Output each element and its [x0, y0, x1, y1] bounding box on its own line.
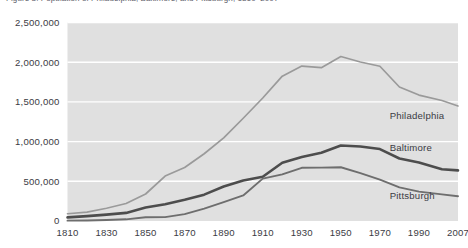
- y-axis-tick-label: 0: [54, 215, 60, 226]
- y-axis-tick-label: 2,500,000: [15, 17, 59, 28]
- series-label-baltimore: Baltimore: [390, 142, 432, 153]
- x-axis-tick-label: 1890: [213, 227, 235, 238]
- population-line-chart: Figure 3. Population of Philadelphia, Ba…: [0, 0, 468, 248]
- x-axis-tick-label: 1830: [95, 227, 117, 238]
- plot-area-wrapper: 0500,0001,000,0001,500,0002,000,0002,500…: [0, 0, 468, 248]
- x-axis-tick-label: 2007: [447, 227, 468, 238]
- y-axis-tick-label: 1,500,000: [15, 96, 59, 107]
- chart-svg: 0500,0001,000,0001,500,0002,000,0002,500…: [0, 0, 468, 248]
- y-axis-tick-label: 2,000,000: [15, 57, 59, 68]
- y-axis-tick-label: 500,000: [23, 176, 59, 187]
- series-label-philadelphia: Philadelphia: [390, 110, 445, 121]
- x-axis-tick-label: 1810: [56, 227, 78, 238]
- x-axis-tick-label: 1930: [291, 227, 313, 238]
- y-axis-tick-label: 1,000,000: [15, 136, 59, 147]
- x-axis-tick-label: 1990: [408, 227, 430, 238]
- series-label-pittsburgh: Pittsburgh: [390, 190, 435, 201]
- x-axis-tick-label: 1910: [252, 227, 274, 238]
- x-axis-tick-label: 1950: [330, 227, 352, 238]
- x-axis-tick-label: 1970: [369, 227, 391, 238]
- x-axis-tick-label: 1870: [174, 227, 196, 238]
- x-axis-tick-label: 1850: [135, 227, 157, 238]
